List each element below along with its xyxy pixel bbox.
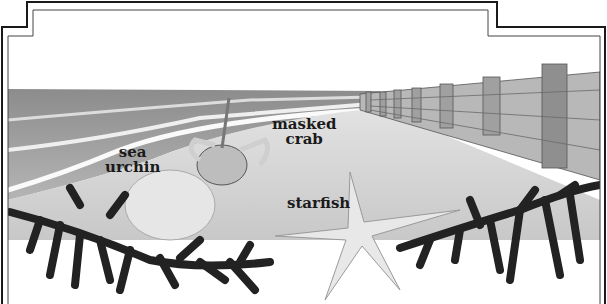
scene [8, 64, 600, 300]
sea-urchin [125, 170, 215, 240]
label-sea-urchin: sea urchin [105, 145, 160, 175]
beach-scene [0, 0, 607, 304]
label-crab: crab [272, 132, 336, 147]
label-urchin: urchin [105, 160, 160, 175]
label-starfish: starfish [287, 196, 350, 211]
label-masked-crab: masked crab [272, 117, 336, 147]
beach-illustration: sea urchin masked crab starfish [0, 0, 607, 304]
